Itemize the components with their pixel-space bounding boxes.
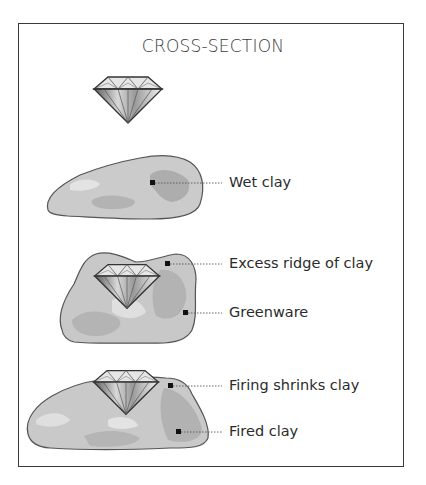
diamond-icon [94,77,162,123]
diagram-artwork [0,0,426,485]
excess-ridge-marker [165,261,170,266]
firing-shrinks-marker [168,383,173,388]
wet-clay-marker [150,180,155,185]
label-firing-shrinks: Firing shrinks clay [229,377,359,393]
label-greenware: Greenware [229,304,308,320]
fired-clay-shape [27,371,222,450]
wet-clay-shape [47,156,222,219]
greenware-shape [60,253,222,343]
label-fired-clay: Fired clay [229,423,298,439]
greenware-marker [183,310,188,315]
label-wet-clay: Wet clay [229,174,291,190]
fired-clay-marker [176,429,181,434]
label-excess-ridge: Excess ridge of clay [229,255,373,271]
